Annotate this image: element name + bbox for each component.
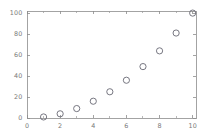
- x-tick-label: 6: [124, 122, 128, 130]
- x-tick-label: 8: [157, 122, 161, 130]
- y-tick-label: 20: [14, 93, 22, 101]
- y-tick-label: 40: [14, 72, 22, 80]
- plot-background: [0, 0, 210, 135]
- plot-canvas: 0246810 020406080100: [0, 0, 210, 135]
- x-tick-label: 2: [58, 122, 62, 130]
- y-tick-label: 60: [14, 51, 22, 59]
- y-tick-label: 80: [14, 30, 22, 38]
- x-tick-label: 10: [188, 122, 196, 130]
- y-tick-label: 100: [10, 9, 23, 17]
- y-tick-label: 0: [18, 114, 22, 122]
- x-tick-label: 0: [25, 122, 29, 130]
- scatter-plot-figure: 0246810 020406080100: [0, 0, 210, 135]
- x-tick-label: 4: [91, 122, 95, 130]
